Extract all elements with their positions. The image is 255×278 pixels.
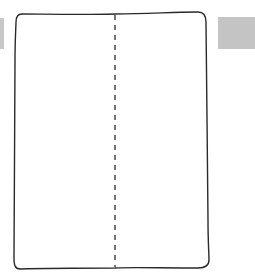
card-outline (14, 12, 209, 269)
folded-card-sketch (0, 0, 255, 278)
